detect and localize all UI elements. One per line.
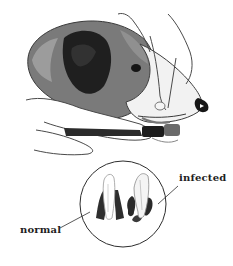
tooth-comparison-inset [60,161,178,247]
dental-illustration: infected normal [0,0,233,266]
normal-label: normal [20,224,61,235]
infected-label: infected [179,172,226,183]
